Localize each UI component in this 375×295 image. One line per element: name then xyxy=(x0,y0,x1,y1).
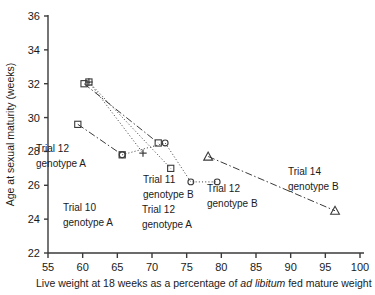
series-line xyxy=(84,84,158,143)
series-trial-11-genotype-b xyxy=(86,79,174,172)
scatter-plot-canvas: 2224262830323436556065707580859095100Age… xyxy=(0,0,375,295)
x-axis-title-italic: ad libitum xyxy=(240,277,285,289)
x-tick-label: 55 xyxy=(42,261,54,273)
y-tick-label: 34 xyxy=(28,44,40,56)
x-tick-label: 90 xyxy=(285,261,297,273)
annotation-line-2: genotype B xyxy=(207,198,258,209)
series-trial-12-genotype-a xyxy=(85,78,146,157)
series-line xyxy=(78,124,122,155)
series-line xyxy=(89,82,171,168)
annotation-line-2: genotype B xyxy=(288,181,339,192)
marker-plus[interactable] xyxy=(139,149,146,156)
series-trial-12-genotype-a-low- xyxy=(75,121,126,158)
y-tick-label: 26 xyxy=(28,179,40,191)
y-tick-label: 32 xyxy=(28,78,40,90)
marker-circle[interactable] xyxy=(162,140,168,146)
annotation-line-1: Trial 12 xyxy=(207,183,240,194)
annotation-trial-11-genotype-b: Trial 11genotype B xyxy=(143,174,194,200)
series-trial-10-genotype-a xyxy=(81,81,161,146)
annotation-line-2: genotype A xyxy=(142,219,192,230)
x-tick-label: 70 xyxy=(146,261,158,273)
y-axis-title: Age at sexual maturity (weeks) xyxy=(4,63,16,207)
marker-triangle[interactable] xyxy=(204,152,213,160)
x-tick-label: 95 xyxy=(319,261,331,273)
x-tick-label: 100 xyxy=(351,261,369,273)
annotation-trial-10-genotype-a: Trial 10genotype A xyxy=(63,202,113,228)
y-tick-label: 22 xyxy=(28,247,40,259)
y-tick-label: 36 xyxy=(28,10,40,22)
x-tick-label: 60 xyxy=(77,261,89,273)
annotation-trial-14-genotype-b: Trial 14genotype B xyxy=(288,166,339,192)
annotation-line-1: Trial 10 xyxy=(63,202,96,213)
annotation-trial-12-genotype-b: Trial 12genotype B xyxy=(207,183,258,209)
x-axis-title-pre: Live weight at 18 weeks as a percentage … xyxy=(36,277,240,289)
annotation-line-1: Trial 14 xyxy=(288,166,321,177)
annotation-line-1: Trial 12 xyxy=(36,143,69,154)
y-tick-label: 30 xyxy=(28,112,40,124)
annotation-trial-12-genotype-a-left: Trial 12genotype A xyxy=(36,143,86,169)
x-tick-label: 85 xyxy=(250,261,262,273)
x-axis-title: Live weight at 18 weeks as a percentage … xyxy=(36,277,372,289)
annotation-line-1: Trial 11 xyxy=(143,174,176,185)
annotation-line-1: Trial 12 xyxy=(142,204,175,215)
annotation-line-2: genotype A xyxy=(63,217,113,228)
series-line xyxy=(89,82,143,153)
annotation-line-2: genotype B xyxy=(143,189,194,200)
x-tick-label: 75 xyxy=(181,261,193,273)
y-tick-label: 24 xyxy=(28,213,40,225)
annotation-line-2: genotype A xyxy=(36,158,86,169)
x-tick-group: 556065707580859095100 xyxy=(42,253,369,273)
x-axis-title-post: fed mature weight xyxy=(285,277,371,289)
marker-circle[interactable] xyxy=(119,152,125,158)
x-tick-label: 65 xyxy=(111,261,123,273)
x-tick-label: 80 xyxy=(215,261,227,273)
y-tick-group: 2224262830323436 xyxy=(28,10,48,259)
annotation-trial-12-genotype-a-right: Trial 12genotype A xyxy=(142,204,192,230)
chart-figure: 2224262830323436556065707580859095100Age… xyxy=(0,0,375,295)
